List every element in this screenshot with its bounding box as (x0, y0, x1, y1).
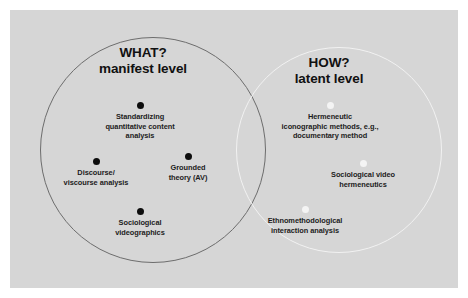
node-label: Standardizing quantitative content analy… (80, 112, 200, 141)
how-latent-heading: HOW? latent level (244, 55, 414, 87)
node-label: Sociological video hermeneutics (298, 170, 428, 189)
node-ethnomethodological-interaction-analysis: Ethnomethodological interaction analysis (235, 206, 375, 235)
how-heading-line1: HOW? (244, 55, 414, 71)
diagram-panel: WHAT? manifest level HOW? latent level S… (10, 10, 458, 288)
node-hermeneutic-iconographic-methods: Hermeneutic iconographic methods, e.g., … (250, 102, 410, 141)
node-standardizing-quantitative-content-analysis: Standardizing quantitative content analy… (80, 102, 200, 141)
node-sociological-videographics: Sociological videographics (85, 208, 195, 237)
node-dot-icon (327, 102, 334, 109)
what-manifest-heading: WHAT? manifest level (48, 45, 238, 77)
what-heading-line1: WHAT? (48, 45, 238, 61)
node-dot-icon (302, 206, 309, 213)
figure-canvas: WHAT? manifest level HOW? latent level S… (0, 0, 468, 298)
node-grounded-theory-av: Grounded theory (AV) (138, 153, 238, 182)
node-dot-icon (93, 158, 100, 165)
node-dot-icon (185, 153, 192, 160)
what-heading-line2: manifest level (48, 61, 238, 77)
node-label: Sociological videographics (85, 218, 195, 237)
node-dot-icon (360, 160, 367, 167)
node-label: Grounded theory (AV) (138, 163, 238, 182)
node-dot-icon (137, 102, 144, 109)
node-dot-icon (137, 208, 144, 215)
node-label: Hermeneutic iconographic methods, e.g., … (250, 112, 410, 141)
node-label: Ethnomethodological interaction analysis (235, 216, 375, 235)
how-heading-line2: latent level (244, 71, 414, 87)
node-sociological-video-hermeneutics: Sociological video hermeneutics (298, 160, 428, 189)
